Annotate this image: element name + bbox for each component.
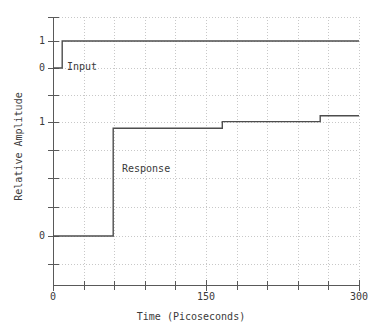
series-label-response: Response	[122, 164, 170, 174]
series-container	[0, 0, 382, 333]
chart-figure: 1 0 1 0 0 150 300 Time (Picoseconds) Rel…	[0, 0, 382, 333]
series-line-input	[53, 41, 359, 68]
series-line-response	[53, 116, 359, 236]
series-label-input: Input	[67, 62, 97, 72]
